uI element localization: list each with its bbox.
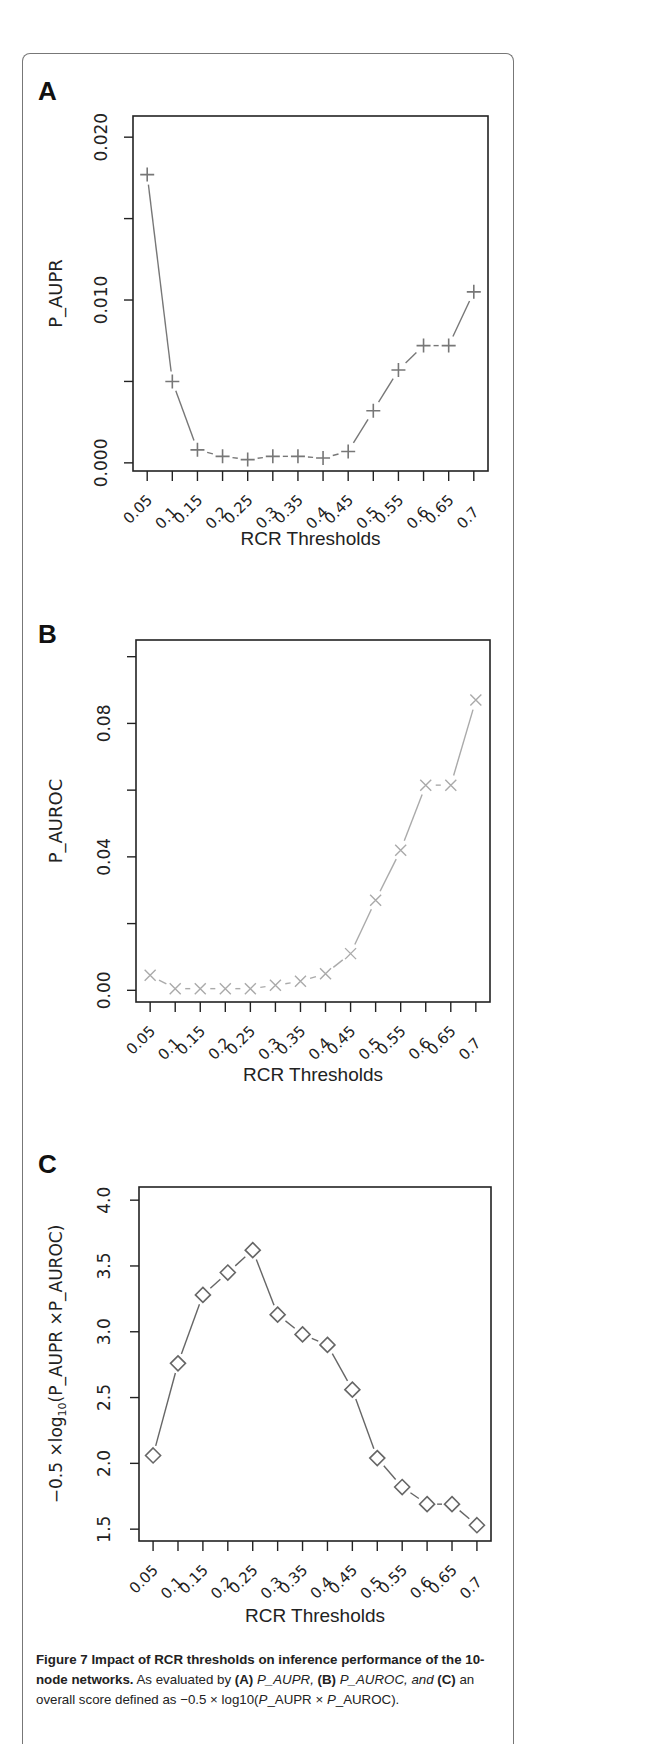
x-tick-label: 0.65 xyxy=(423,1022,459,1058)
x-marker-icon xyxy=(195,983,206,994)
series-line-segment xyxy=(285,983,290,984)
x-marker-icon xyxy=(370,895,381,906)
plus-marker-icon xyxy=(140,168,154,182)
y-tick-label: 3.5 xyxy=(94,1252,114,1279)
diamond-marker-icon xyxy=(395,1480,410,1495)
series-line-segment xyxy=(406,353,417,363)
y-axis-label-part: (P_AUPR ×P_AUROC) xyxy=(46,1225,67,1403)
x-tick-label: 0.7 xyxy=(455,1034,485,1064)
plus-marker-icon xyxy=(442,339,456,353)
plus-marker-icon xyxy=(190,443,204,457)
diamond-marker-icon xyxy=(295,1327,310,1342)
series-line-segment xyxy=(333,454,339,455)
series-line-segment xyxy=(332,1354,347,1381)
x-tick-label: 0.65 xyxy=(424,1561,460,1597)
x-marker-icon xyxy=(270,980,281,991)
x-axis-label: RCR Thresholds xyxy=(243,1064,383,1085)
series-line-segment xyxy=(156,1373,176,1446)
plus-marker-icon xyxy=(241,453,255,467)
series-line-segment xyxy=(353,419,368,443)
y-tick-label: 0.020 xyxy=(91,113,111,162)
series-line-segment xyxy=(148,185,171,372)
caption-body-2: P_AUPR, xyxy=(253,1672,317,1687)
series-line-segment xyxy=(460,1511,470,1519)
y-tick-label: 0.000 xyxy=(91,439,111,488)
series-line-segment xyxy=(356,1399,374,1449)
diamond-marker-icon xyxy=(469,1518,484,1533)
x-marker-icon xyxy=(170,983,181,994)
x-tick-label: 0.35 xyxy=(275,1561,311,1597)
series-line-segment xyxy=(454,710,473,776)
series-line-segment xyxy=(355,909,372,944)
y-tick-label: 0.00 xyxy=(94,971,114,1009)
x-tick-label: 0.25 xyxy=(223,1022,259,1058)
plot-area-border xyxy=(139,1187,491,1541)
x-tick-label: 0.45 xyxy=(323,1022,359,1058)
y-axis-label: −0.5 ×log10(P_AUPR ×P_AUROC) xyxy=(46,1225,69,1504)
series-line-segment xyxy=(210,1279,220,1288)
diamond-marker-icon xyxy=(370,1451,385,1466)
plus-marker-icon xyxy=(291,449,305,463)
x-marker-icon xyxy=(145,970,156,981)
series-line-segment xyxy=(159,980,166,984)
y-axis-label-part: 10 xyxy=(56,1402,69,1416)
x-tick-label: 0.25 xyxy=(225,1561,261,1597)
x-marker-icon xyxy=(220,983,231,994)
x-marker-icon xyxy=(345,948,356,959)
diamond-marker-icon xyxy=(170,1356,185,1371)
diamond-marker-icon xyxy=(445,1497,460,1512)
diamond-marker-icon xyxy=(420,1497,435,1512)
x-tick-label: 0.55 xyxy=(371,491,407,527)
series-line-segment xyxy=(256,1259,274,1305)
x-marker-icon xyxy=(445,780,456,791)
x-tick-label: 0.55 xyxy=(375,1561,411,1597)
y-tick-label: 2.0 xyxy=(94,1450,114,1477)
x-marker-icon xyxy=(245,983,256,994)
caption-body-3: (B) xyxy=(318,1672,336,1687)
series-line-segment xyxy=(410,1493,418,1499)
y-tick-label: 2.5 xyxy=(94,1384,114,1411)
series-line-segment xyxy=(232,458,237,459)
caption-body-4: P_AUROC, and xyxy=(336,1672,437,1687)
plus-marker-icon xyxy=(391,363,405,377)
x-axis-label: RCR Thresholds xyxy=(245,1605,385,1626)
series-line-segment xyxy=(380,859,396,891)
diamond-marker-icon xyxy=(245,1243,260,1258)
plus-marker-icon xyxy=(266,449,280,463)
y-tick-label: 0.010 xyxy=(91,276,111,325)
diamond-marker-icon xyxy=(220,1265,235,1280)
x-marker-icon xyxy=(295,976,306,987)
x-marker-icon xyxy=(470,695,481,706)
series-line-segment xyxy=(312,1338,318,1341)
caption-body-5: (C) xyxy=(437,1672,455,1687)
caption-body-0: As evaluated by xyxy=(134,1672,235,1687)
series-line-segment xyxy=(310,977,316,979)
y-axis-label-part: −0.5 ×log xyxy=(46,1416,66,1503)
series-line-segment xyxy=(258,458,263,459)
x-tick-label: 0.55 xyxy=(373,1022,409,1058)
series-line-segment xyxy=(235,1257,245,1266)
diamond-marker-icon xyxy=(270,1307,285,1322)
plus-marker-icon xyxy=(216,449,230,463)
series-line-segment xyxy=(384,1466,396,1480)
x-marker-icon xyxy=(320,968,331,979)
plot-area-border xyxy=(136,640,490,1002)
series-line-segment xyxy=(181,1304,199,1354)
plus-marker-icon xyxy=(165,374,179,388)
caption-body-9: P xyxy=(327,1692,336,1707)
figure-caption: Figure 7 Impact of RCR thresholds on inf… xyxy=(36,1650,516,1710)
y-tick-label: 4.0 xyxy=(94,1187,114,1214)
plus-marker-icon xyxy=(417,339,431,353)
plus-marker-icon xyxy=(467,285,481,299)
caption-body-10: _AUROC). xyxy=(336,1692,400,1707)
y-tick-label: 1.5 xyxy=(94,1516,114,1543)
panel-c: C1.52.02.53.03.54.0−0.5 ×log10(P_AUPR ×P… xyxy=(38,1149,491,1626)
y-tick-label: 0.04 xyxy=(94,838,114,876)
y-tick-label: 3.0 xyxy=(94,1318,114,1345)
series-line-segment xyxy=(176,391,194,441)
y-axis-label: P_AUPR xyxy=(45,259,67,328)
series-line-segment xyxy=(404,794,422,840)
x-tick-label: 0.7 xyxy=(456,1573,486,1603)
diamond-marker-icon xyxy=(320,1337,335,1352)
panel-label: A xyxy=(38,76,57,106)
